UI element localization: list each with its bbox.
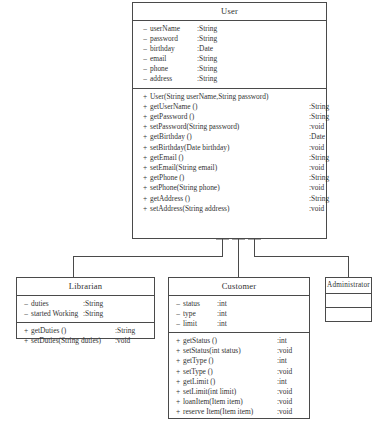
attribute-name: duties: [31, 299, 49, 309]
visibility-marker: –: [174, 309, 182, 319]
attribute-row: – duties :String: [17, 299, 154, 309]
visibility-marker: –: [22, 299, 30, 309]
visibility-marker: –: [141, 54, 149, 64]
attribute-name: userName: [150, 24, 180, 34]
operation-row: + User(String userName,String password): [133, 92, 326, 102]
operation-row: + getBirthday () :Date: [133, 132, 326, 142]
attribute-name: type: [183, 309, 196, 319]
operation-row: + setStatus(int status) :void: [169, 346, 309, 356]
operation-row: + getUserName () :String: [133, 102, 326, 112]
operation-return-type: :void: [277, 346, 292, 356]
visibility-marker: +: [174, 387, 182, 397]
attribute-row: – password :String: [133, 34, 326, 44]
operation-row: + getType () :int: [169, 356, 309, 366]
visibility-marker: +: [22, 336, 30, 346]
visibility-marker: +: [141, 173, 149, 183]
attribute-row: – userName :String: [133, 24, 326, 34]
class-box-user[interactable]: User – userName :String – password :Stri…: [132, 2, 327, 239]
visibility-marker: +: [141, 92, 149, 102]
operation-row: + setAddress(String address) :void: [133, 204, 326, 214]
visibility-marker: +: [141, 153, 149, 163]
visibility-marker: –: [174, 299, 182, 309]
operation-name: getPassword (): [150, 112, 194, 122]
operations-compartment-user: + User(String userName,String password) …: [133, 88, 326, 217]
attribute-type: :String: [197, 64, 217, 74]
visibility-marker: +: [174, 346, 182, 356]
operation-row: + setPassword(String password) :void: [133, 122, 326, 132]
operation-name: loanItem(Item item): [183, 397, 243, 407]
operations-compartment-librarian: + getDuties () :String + setDuties(Strin…: [17, 322, 154, 349]
visibility-marker: +: [141, 143, 149, 153]
visibility-marker: –: [141, 64, 149, 74]
operation-name: getType (): [183, 356, 213, 366]
operation-row: + getPhone () :String: [133, 173, 326, 183]
operation-name: getEmail (): [150, 153, 183, 163]
attribute-type: :int: [217, 319, 227, 329]
operation-name: setDuties(String duties): [31, 336, 101, 346]
attribute-type: :int: [217, 309, 227, 319]
visibility-marker: +: [22, 326, 30, 336]
connector-administrator-vertical-top: [254, 239, 255, 256]
attribute-row: – birthday :Date: [133, 44, 326, 54]
operation-name: setPhone(String phone): [150, 183, 220, 193]
attribute-row: – phone :String: [133, 64, 326, 74]
uml-class-diagram: User – userName :String – password :Stri…: [0, 0, 378, 434]
attributes-compartment-librarian: – duties :String – started Working :Stri…: [17, 296, 154, 322]
attributes-compartment-customer: – status :int – type :int – limit :int: [169, 296, 309, 333]
operation-row: + getEmail () :String: [133, 153, 326, 163]
visibility-marker: +: [174, 407, 182, 417]
visibility-marker: +: [174, 336, 182, 346]
attribute-row: – started Working :String: [17, 309, 154, 319]
operation-return-type: :String: [309, 194, 329, 204]
operation-return-type: :void: [277, 367, 292, 377]
visibility-marker: +: [141, 112, 149, 122]
connector-administrator-horizontal: [254, 256, 349, 257]
operation-return-type: :void: [277, 397, 292, 407]
operation-name: setAddress(String address): [150, 204, 229, 214]
connector-librarian-vertical-bottom: [73, 256, 74, 277]
visibility-marker: +: [141, 163, 149, 173]
operation-name: getAddress (): [150, 194, 190, 204]
operation-name: setLimit(int limit): [183, 387, 236, 397]
operation-row: + reserve Item(Item item) :void: [169, 407, 309, 417]
operation-name: setBirthday(Date birthday): [150, 143, 229, 153]
operation-return-type: :String: [309, 112, 329, 122]
operation-row: + setBirthday(Date birthday) :void: [133, 143, 326, 153]
operation-return-type: :String: [309, 102, 329, 112]
visibility-marker: +: [141, 204, 149, 214]
class-box-administrator[interactable]: Administrator: [325, 277, 372, 322]
operation-return-type: :void: [309, 204, 324, 214]
operation-name: setType (): [183, 367, 213, 377]
attribute-name: birthday: [150, 44, 175, 54]
operation-name: getDuties (): [31, 326, 66, 336]
operation-row: + getPassword () :String: [133, 112, 326, 122]
operation-return-type: :int: [277, 377, 287, 387]
visibility-marker: +: [141, 122, 149, 132]
class-box-customer[interactable]: Customer – status :int – type :int – lim…: [168, 277, 310, 419]
attribute-type: :String: [197, 24, 217, 34]
visibility-marker: +: [141, 102, 149, 112]
attribute-type: :String: [197, 54, 217, 64]
visibility-marker: +: [174, 356, 182, 366]
attribute-type: :String: [197, 34, 217, 44]
operation-return-type: :void: [277, 387, 292, 397]
attributes-compartment-administrator: [326, 294, 371, 307]
operation-row: + getAddress () :String: [133, 194, 326, 204]
operation-row: + setLimit(int limit) :void: [169, 387, 309, 397]
class-name-customer: Customer: [169, 278, 309, 296]
operation-name: setStatus(int status): [183, 346, 241, 356]
class-box-librarian[interactable]: Librarian – duties :String – started Wor…: [16, 277, 155, 339]
class-name-user: User: [133, 3, 326, 21]
operation-row: + setType () :void: [169, 367, 309, 377]
operation-name: User(String userName,String password): [150, 92, 268, 102]
operation-return-type: :String: [115, 326, 135, 336]
operation-name: getPhone (): [150, 173, 184, 183]
operations-compartment-customer: + getStatus () :int + setStatus(int stat…: [169, 332, 309, 421]
operation-return-type: :void: [309, 122, 324, 132]
attribute-name: status: [183, 299, 200, 309]
operation-row: + setPhone(String phone) :void: [133, 183, 326, 193]
attribute-row: – limit :int: [169, 319, 309, 329]
operation-row: + getDuties () :String: [17, 326, 154, 336]
visibility-marker: +: [174, 397, 182, 407]
visibility-marker: –: [141, 24, 149, 34]
